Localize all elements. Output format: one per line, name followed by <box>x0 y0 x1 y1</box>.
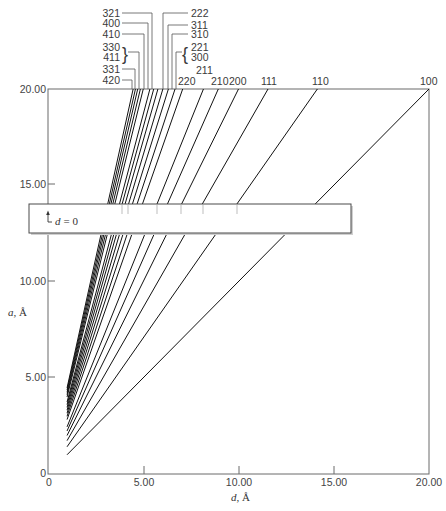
y-tick-15: 15.00 <box>20 178 46 190</box>
series-line-310 <box>67 89 168 413</box>
series-line-330-411 <box>67 89 138 392</box>
hkl-labels-left: 321 400 410 330 411 } 331 420 <box>102 7 152 89</box>
label-210: 210 <box>211 75 229 87</box>
axis-break-inset: d= 0 <box>29 204 353 235</box>
y-tick-5: 5.00 <box>26 371 47 383</box>
label-222: 222 <box>191 7 209 19</box>
label-110: 110 <box>312 75 329 87</box>
label-111: 111 <box>261 75 277 87</box>
x-tick-5: 5.00 <box>134 476 155 488</box>
lattice-parameter-chart: 20.00 15.00 10.00 5.00 0 0 5.00 10.00 15… <box>0 0 446 511</box>
label-420: 420 <box>102 74 120 86</box>
brace-left-icon: { <box>182 44 188 64</box>
series-line-311 <box>67 89 163 410</box>
label-411: 411 <box>103 51 120 63</box>
x-tick-10: 10.00 <box>226 476 252 488</box>
label-310: 310 <box>191 28 209 40</box>
hkl-labels-right: 222 311 310 221 300 { 211 220 210 200 11… <box>163 7 438 89</box>
y-tick-10: 10.00 <box>20 275 46 287</box>
label-410: 410 <box>102 28 120 40</box>
brace-right-icon: } <box>122 44 128 64</box>
series-line-400 <box>67 89 143 397</box>
x-axis-ticks <box>144 466 334 474</box>
x-axis-label: d, Å <box>231 491 250 503</box>
x-tick-15: 15.00 <box>321 476 347 488</box>
label-100: 100 <box>420 75 438 87</box>
y-tick-labels: 20.00 15.00 10.00 5.00 0 <box>20 83 46 479</box>
series-line-210 <box>67 89 218 431</box>
series-line-211 <box>67 89 203 427</box>
y-tick-20: 20.00 <box>20 83 46 95</box>
x-tick-20: 20.00 <box>416 476 442 488</box>
series-lines <box>67 89 429 455</box>
label-200: 200 <box>229 75 247 87</box>
series-line-222 <box>67 89 158 407</box>
series-line-221-300 <box>67 89 175 416</box>
series-line-321 <box>67 89 150 402</box>
series-line-n13 <box>67 89 154 405</box>
y-axis-label: a, Å <box>8 306 27 318</box>
x-tick-0: 0 <box>46 476 52 488</box>
d-equals-zero-label: d= 0 <box>55 215 78 227</box>
x-tick-labels: 0 5.00 10.00 15.00 20.00 <box>46 476 442 488</box>
label-220: 220 <box>178 75 196 87</box>
series-line-200 <box>67 89 238 436</box>
label-300: 300 <box>191 51 209 63</box>
series-line-220 <box>67 89 183 420</box>
